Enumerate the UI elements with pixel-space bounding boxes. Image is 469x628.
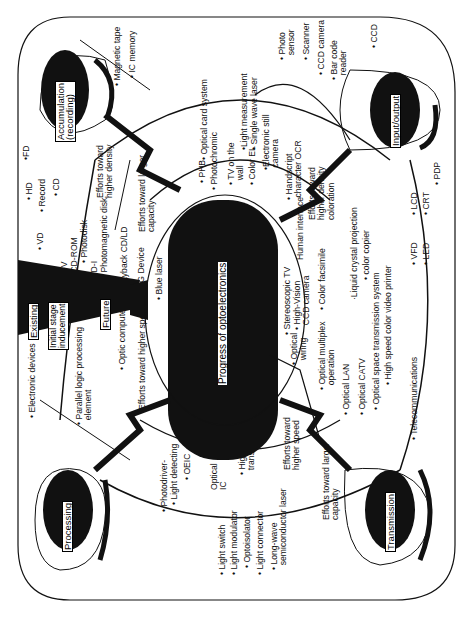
item-handscript-ocr: • Handscript character OCR bbox=[285, 140, 304, 200]
item-photodisk: • Photodisk bbox=[80, 220, 89, 263]
item-photodriver: • Photodriver- bbox=[160, 460, 169, 512]
item-parallel-logic: • Parallel logic processing element bbox=[75, 327, 94, 425]
accumulation-label: Accumulation (recording) bbox=[55, 81, 76, 142]
stage-future-label: Future bbox=[100, 299, 111, 330]
center-title: Progress of optoelectronics bbox=[218, 262, 227, 385]
item-photomagnetic-disk: • Photomagnetic disk bbox=[100, 198, 109, 278]
item-optical-space-transmission: • Optical space transmission system bbox=[372, 272, 381, 410]
item-optical-ic: Optical IC bbox=[210, 463, 229, 490]
item-playback-cd-ld: • Playback CD/LD bbox=[120, 227, 129, 295]
item-hd: • HD bbox=[25, 182, 34, 200]
item-bar-code-reader: • Bar code reader bbox=[330, 40, 349, 80]
item-light-switch: • Light switch bbox=[218, 525, 227, 575]
item-light-connector: • Light connector bbox=[256, 511, 265, 575]
item-optical-multiplex: • Optical multiplex operation bbox=[318, 322, 337, 390]
item-magnetic-tape: • Magnetic tape bbox=[113, 27, 122, 86]
item-color-copier: • color copier bbox=[362, 230, 371, 280]
item-phb: • PHB bbox=[198, 160, 207, 183]
item-scanner: • Scanner bbox=[302, 23, 311, 60]
item-high-vision-transmission: • High vision transmission system bbox=[238, 392, 257, 475]
item-color-facsimile: • Color facsimile bbox=[318, 248, 327, 310]
item-vfd: • VFD bbox=[410, 242, 419, 265]
item-cd-rom: • CD-ROM bbox=[70, 237, 79, 278]
input-output-label: Input/output bbox=[390, 94, 401, 148]
item-ccd-camera: • CCD camera bbox=[317, 20, 326, 75]
stage-initial-label: Initial stage inducement bbox=[48, 302, 69, 350]
item-light-measurement: •Light measurement bbox=[240, 73, 249, 150]
effort-higher-speed-trans: Efforts toward higher speed bbox=[283, 417, 302, 470]
item-optical-lan: • Optical LAN bbox=[342, 364, 351, 415]
effort-higher-speed-proc: Efforts toward higher speed bbox=[138, 305, 147, 410]
item-light-detecting: • Light detecting bbox=[170, 444, 179, 505]
item-fd: •FD bbox=[22, 146, 31, 160]
item-single-wave-laser: • Single wave laser bbox=[250, 77, 259, 150]
item-blue-laser: • Blue laser bbox=[155, 256, 164, 300]
item-cd-i: • CD-I bbox=[90, 261, 99, 284]
effort-higher-density-coloration: Efforts toward higher density coloration bbox=[308, 166, 336, 220]
item-record: • Record bbox=[38, 179, 47, 212]
item-photo-sensor: • Photo sensor bbox=[278, 29, 297, 60]
item-light-modulator: • Light modulator bbox=[230, 510, 239, 575]
item-electronic-still-camera: •Electronic still camera bbox=[262, 114, 281, 170]
item-cd-v: • CD-V bbox=[60, 262, 69, 288]
item-led: • LED bbox=[422, 243, 431, 265]
item-long-wave-laser: • Long-wave semiconductor laser bbox=[270, 488, 289, 570]
effort-human-interface: Human interface bbox=[296, 197, 305, 260]
item-vd: • VD bbox=[36, 233, 45, 250]
item-high-speed-color-printer: • High speed color video printer bbox=[384, 265, 393, 385]
item-optical-card-system: • Optical card system bbox=[200, 79, 209, 160]
item-color-el: • Color EL bbox=[248, 146, 257, 185]
item-stereoscopic-tv: • Stereoscopic TV bbox=[283, 267, 292, 335]
item-telecommunications: • Telecommunications bbox=[410, 357, 419, 440]
item-optical-wiring: • Optical wiring bbox=[290, 333, 309, 365]
transmission-label: Transmission bbox=[385, 492, 396, 552]
processing-label: Processing bbox=[62, 501, 73, 552]
item-ccd: • CCD bbox=[370, 24, 379, 48]
effort-higher-density-acc: Efforts toward higher density bbox=[96, 144, 115, 198]
item-shg-device: • SHG Device bbox=[137, 247, 146, 300]
item-optoisolator: • Optoisolator bbox=[243, 516, 252, 568]
item-lcd: • LCD bbox=[410, 192, 419, 215]
item-cd: • CD bbox=[52, 178, 61, 196]
item-photochromic: • Photochromic bbox=[210, 132, 219, 190]
item-high-vision-ccd-camera: • High-Vision CCD camera bbox=[293, 276, 312, 330]
item-optical-catv: • Optical CATV bbox=[358, 358, 367, 415]
item-crt: • CRT bbox=[422, 192, 431, 215]
effort-larger-capacity-trans: Efforts toward larger capacity bbox=[322, 443, 341, 520]
item-optic-computer: • Optic computer bbox=[118, 306, 127, 370]
item-oeic: • OEIC bbox=[183, 454, 192, 480]
item-liquid-crystal-projection: ·Liquid crystal projection bbox=[350, 207, 359, 300]
optoelectronics-diagram: Existing Initial stage inducement Future… bbox=[0, 0, 469, 628]
effort-larger-capacity-acc: Efforts toward larger capacity bbox=[138, 155, 157, 232]
item-tv-on-the-wall: • TV on the wall bbox=[227, 142, 246, 185]
stage-existing-label: Existing bbox=[28, 303, 39, 340]
item-ic-memory: • IC memory bbox=[128, 31, 137, 78]
item-pdp: • PDP bbox=[433, 162, 442, 185]
item-electronic-devices: • Electronic devices bbox=[28, 343, 37, 418]
